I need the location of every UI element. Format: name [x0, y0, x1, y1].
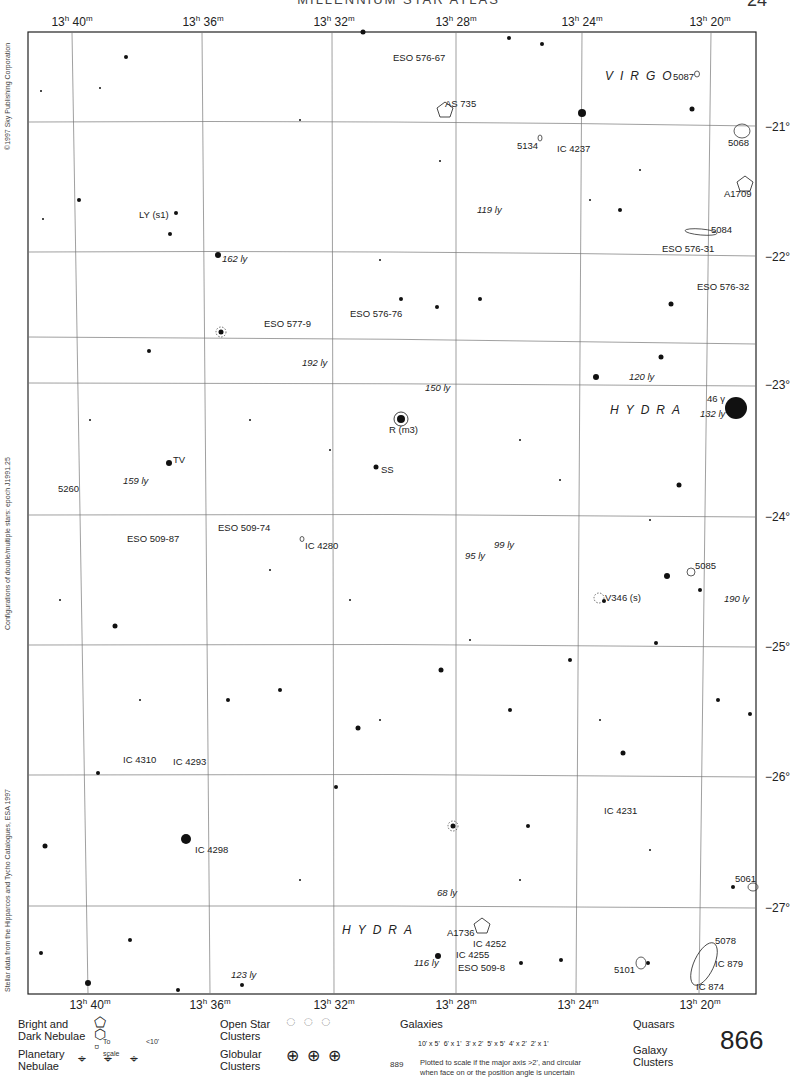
object-label: ESO 509-8: [458, 962, 505, 973]
galaxy-sizes: 10' x 5' 6' x 1' 3' x 2' 5' x 5' 4' x 2'…: [418, 1038, 549, 1050]
distance-label: 123 ly: [231, 969, 258, 980]
object-label: 46 γ: [707, 393, 725, 404]
object-label: A1709: [724, 188, 751, 199]
dec-tick-label: −27°: [765, 901, 790, 915]
data-source-note: Stellar data from the Hipparcos and Tych…: [4, 789, 11, 992]
object-label: IC 874: [696, 981, 724, 992]
ra-tick-label: 13h 24m: [561, 14, 602, 29]
planetary-nebula-icon: ⌖⌖⌖: [78, 1052, 156, 1064]
dec-tick-label: −25°: [765, 640, 790, 654]
object-label: 5085: [695, 560, 716, 571]
constellation-hydra: HYDRA: [610, 403, 687, 417]
ra-tick-label: 13h 40m: [69, 997, 110, 1012]
distance-labels: 119 ly162 ly192 ly150 ly120 ly132 ly159 …: [123, 204, 751, 980]
object-labels: ESO 576-67AS 735508750685134IC 4237A1709…: [58, 52, 756, 992]
distance-label: 68 ly: [437, 887, 458, 898]
distance-label: 162 ly: [222, 253, 249, 264]
page-number: 866: [720, 1025, 763, 1056]
chart-frame: [28, 32, 756, 994]
object-label: IC 4298: [195, 844, 228, 855]
object-label: IC 4252: [473, 938, 506, 949]
copyright-text: ©1997 Sky Publishing Corporation: [4, 43, 11, 150]
constellation-hydra: HYDRA: [342, 923, 419, 937]
object-label: ESO 577-9: [264, 318, 311, 329]
galaxies: [300, 71, 758, 989]
distance-label: 95 ly: [465, 550, 486, 561]
distance-label: 116 ly: [414, 957, 440, 968]
object-label: 5260: [58, 483, 79, 494]
dec-tick-label: −24°: [765, 510, 790, 524]
object-label: ESO 576-67: [393, 52, 445, 63]
object-label: TV: [173, 454, 186, 465]
dec-tick-label: −22°: [765, 250, 790, 264]
ra-tick-label: 13h 32m: [313, 14, 354, 29]
legend-clusters: Open Star Clusters ◌◌◌ Globular Clusters…: [220, 1018, 280, 1072]
object-label: R (m3): [389, 424, 418, 435]
legend-galaxy-clusters-title: Galaxy Clusters: [633, 1044, 678, 1068]
object-label: ESO 576-31: [662, 243, 714, 254]
ra-tick-label: 13h 32m: [313, 997, 354, 1012]
ra-tick-label: 13h 36m: [182, 14, 223, 29]
object-label: AS 735: [445, 98, 476, 109]
object-label: IC 4255: [456, 949, 489, 960]
object-label: 5101: [614, 964, 635, 975]
legend-planetary-title: Planetary Nebulae: [18, 1048, 78, 1072]
distance-label: 192 ly: [302, 357, 329, 368]
dec-tick-label: −26°: [765, 770, 790, 784]
object-label: 5068: [728, 137, 749, 148]
ra-tick-label: 13h 28m: [435, 14, 476, 29]
ra-tick-label: 13h 40m: [51, 14, 92, 29]
ra-tick-label: 13h 28m: [435, 997, 476, 1012]
star-chart: VIRGO HYDRA HYDRA ESO 576-67AS 735508750…: [0, 0, 797, 1080]
distance-label: 159 ly: [123, 475, 150, 486]
object-label: 5061: [735, 873, 756, 884]
legend-galaxies: Galaxies 10' x 5' 6' x 1' 3' x 2' 5' x 5…: [400, 1018, 443, 1030]
legend-globular-title: Globular Clusters: [220, 1048, 280, 1072]
legend-open-cluster-title: Open Star Clusters: [220, 1018, 280, 1042]
open-cluster-symbol: [594, 593, 604, 603]
ra-grid: [72, 32, 711, 994]
object-label: ESO 509-74: [218, 522, 270, 533]
object-label: LY (s1): [139, 209, 169, 220]
object-label: IC 4237: [557, 143, 590, 154]
distance-label: 150 ly: [425, 382, 452, 393]
ra-tick-label: 13h 24m: [557, 997, 598, 1012]
legend-nebulae-title: Bright and Dark Nebulae: [18, 1018, 88, 1042]
galaxy-cluster-symbol: [474, 918, 490, 933]
dec-tick-label: −23°: [765, 378, 790, 392]
object-label: IC 4231: [604, 805, 637, 816]
object-label: IC 4310: [123, 754, 156, 765]
object-label: IC 4280: [305, 540, 338, 551]
object-label: 5087: [673, 71, 694, 82]
distance-label: 120 ly: [629, 371, 656, 382]
object-label: A1736: [447, 927, 474, 938]
ra-tick-label: 13h 36m: [189, 997, 230, 1012]
legend-quasars-clusters: Quasars Galaxy Clusters: [633, 1018, 678, 1068]
legend-nebulae: Bright and Dark Nebulae ⬠ ⬡ ▫ To scale <…: [18, 1018, 88, 1072]
object-label: V346 (s): [605, 592, 641, 603]
object-label: 5078: [715, 935, 736, 946]
globular-cluster-icon: ⊕⊕⊕: [286, 1050, 349, 1062]
dec-tick-label: −21°: [765, 120, 790, 134]
ra-tick-label: 13h 20m: [689, 14, 730, 29]
object-label: ESO 576-32: [697, 281, 749, 292]
ra-tick-label: 13h 20m: [679, 997, 720, 1012]
object-label: ESO 576-76: [350, 308, 402, 319]
object-label: SS: [381, 464, 394, 475]
distance-label: 132 ly: [700, 408, 727, 419]
object-label: 5084: [711, 224, 732, 235]
object-label: IC 879: [715, 958, 743, 969]
adjacent-page-ref[interactable]: 889: [390, 1060, 403, 1069]
stars: [39, 30, 752, 993]
constellation-virgo: VIRGO: [605, 69, 679, 83]
legend-quasars-title: Quasars: [633, 1018, 678, 1030]
dec-grid: [28, 122, 756, 909]
distance-label: 119 ly: [477, 204, 503, 215]
distance-label: 190 ly: [724, 593, 751, 604]
legend-galaxies-title: Galaxies: [400, 1018, 443, 1030]
distance-label: 99 ly: [494, 539, 515, 550]
object-label: 5134: [517, 140, 538, 151]
galaxy-note: Plotted to scale if the major axis >2', …: [420, 1058, 581, 1078]
object-label: ESO 509-87: [127, 533, 179, 544]
epoch-note: Configurations of double/multiple stars:…: [4, 457, 11, 630]
